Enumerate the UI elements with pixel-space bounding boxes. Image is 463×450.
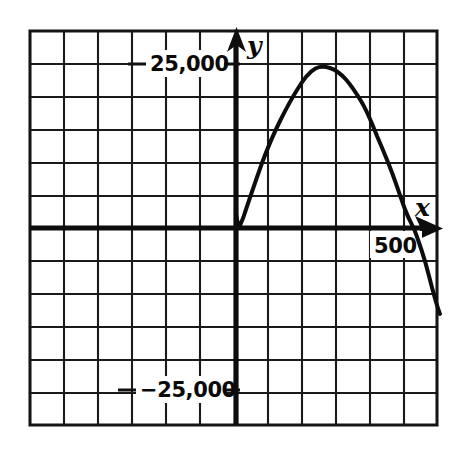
x-axis-tick-label: 500 bbox=[374, 234, 417, 258]
x-axis-letter-label: x bbox=[414, 193, 431, 222]
y-axis-upper-tick-label: 25,000 bbox=[150, 52, 229, 76]
graph-figure: 25,000 −25,000 500 y x bbox=[0, 0, 463, 450]
y-axis-letter-label: y bbox=[246, 31, 263, 60]
y-axis-lower-tick-label: −25,000 bbox=[140, 378, 236, 402]
coordinate-plane-plot: 25,000 −25,000 500 y x bbox=[0, 0, 463, 450]
